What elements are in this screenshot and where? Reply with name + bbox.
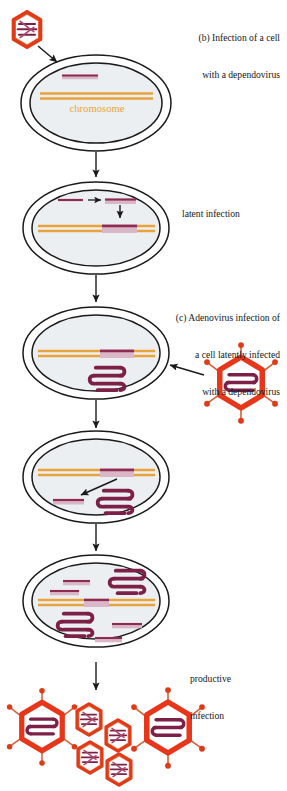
dependovirus-dna-stage1	[62, 76, 98, 78]
caption-panel-c-line2: a cell latently infected	[108, 349, 280, 361]
excised-dependovirus-dna	[53, 500, 84, 502]
incoming-dependovirus-group	[13, 12, 57, 62]
stage-4-cell	[23, 431, 169, 523]
stage-5-cell	[23, 555, 169, 647]
dependovirus-particle-incoming	[13, 12, 40, 48]
caption-panel-c-line1: (c) Adenovirus infection of	[108, 312, 280, 324]
label-productive-infection: productive infection	[190, 649, 231, 747]
caption-panel-b-line2: with a dependovirus	[112, 69, 280, 81]
virus-life-cycle-figure: (b) Infection of a cell with a dependovi…	[0, 0, 287, 791]
dependovirus-particle-released-1	[77, 704, 101, 736]
label-latent-infection: latent infection	[182, 208, 240, 220]
caption-panel-b: (b) Infection of a cell with a dependovi…	[112, 8, 280, 106]
released-virions-group	[7, 687, 205, 785]
stage-2-cell	[23, 182, 169, 274]
caption-panel-c-line3: with a dependovirus	[108, 386, 280, 398]
label-productive-line2: infection	[190, 710, 231, 722]
dependovirus-duplex-stage2	[105, 200, 136, 202]
dependovirus-particle-released-3	[78, 742, 102, 774]
label-chromosome: chromosome	[51, 103, 143, 114]
caption-panel-b-line1: (b) Infection of a cell	[112, 32, 280, 44]
label-productive-line1: productive	[190, 673, 231, 685]
dependovirus-particle-released-4	[107, 754, 131, 786]
caption-panel-c: (c) Adenovirus infection of a cell laten…	[108, 288, 280, 422]
adenovirus-particle-released-1	[7, 688, 77, 766]
infection-arrow	[38, 46, 57, 62]
dependovirus-particle-released-2	[106, 720, 130, 752]
